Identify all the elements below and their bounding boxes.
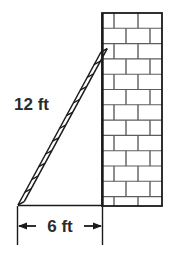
ground-distance-label: 6 ft [47,217,73,236]
ladder-wall-diagram: 12 ft 6 ft [0,0,175,261]
wall-body [102,13,162,206]
arrowhead-right-icon [93,222,102,229]
ladder [18,49,107,205]
ladder-length-label: 12 ft [14,95,49,114]
brick-wall [102,13,162,206]
arrowhead-left-icon [18,222,27,229]
ladder-rail-upper [24,49,107,202]
ground-dimension: 6 ft [18,206,103,245]
